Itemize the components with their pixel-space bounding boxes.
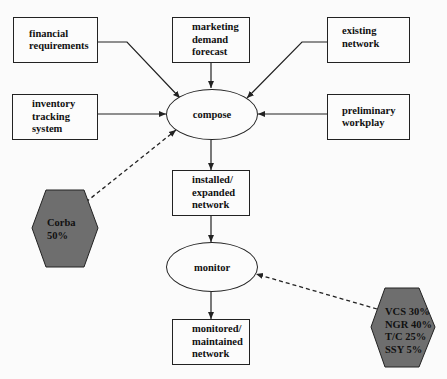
box-financial-requirements: financial requirements: [13, 17, 98, 63]
arrow-financial-to-compose: [97, 42, 180, 98]
process-monitor: monitor: [166, 242, 258, 292]
network-process-diagram: financial requirements marketing demand …: [0, 0, 447, 379]
box-inventory-tracking-system: inventory tracking system: [12, 94, 98, 140]
box-marketing-demand-forecast: marketing demand forecast: [172, 17, 250, 63]
monitor-label: monitor: [194, 262, 230, 273]
monitor-tools-label: VCS 30% NGR 40% T/C 25% SSY 5%: [385, 306, 432, 356]
inventory-tracking-system-label: inventory tracking system: [32, 98, 75, 136]
box-existing-network: existing network: [327, 17, 410, 63]
marketing-demand-forecast-label: marketing demand forecast: [192, 21, 239, 59]
process-compose: compose: [166, 89, 258, 140]
arrow-existing-to-compose: [247, 42, 327, 98]
monitored-maintained-network-label: monitored/ maintained network: [192, 323, 243, 361]
box-installed-expanded-network: installed/ expanded network: [172, 170, 250, 216]
dashed-arrow-tools-to-monitor: [256, 274, 377, 309]
existing-network-label: existing network: [342, 25, 379, 50]
compose-label: compose: [193, 109, 232, 120]
box-monitored-maintained-network: monitored/ maintained network: [172, 319, 250, 365]
box-preliminary-workplay: preliminary workplay: [327, 94, 410, 140]
financial-requirements-label: financial requirements: [29, 28, 89, 53]
installed-expanded-network-label: installed/ expanded network: [192, 174, 235, 212]
preliminary-workplay-label: preliminary workplay: [342, 105, 395, 130]
corba-label: Corba 50%: [47, 217, 76, 242]
